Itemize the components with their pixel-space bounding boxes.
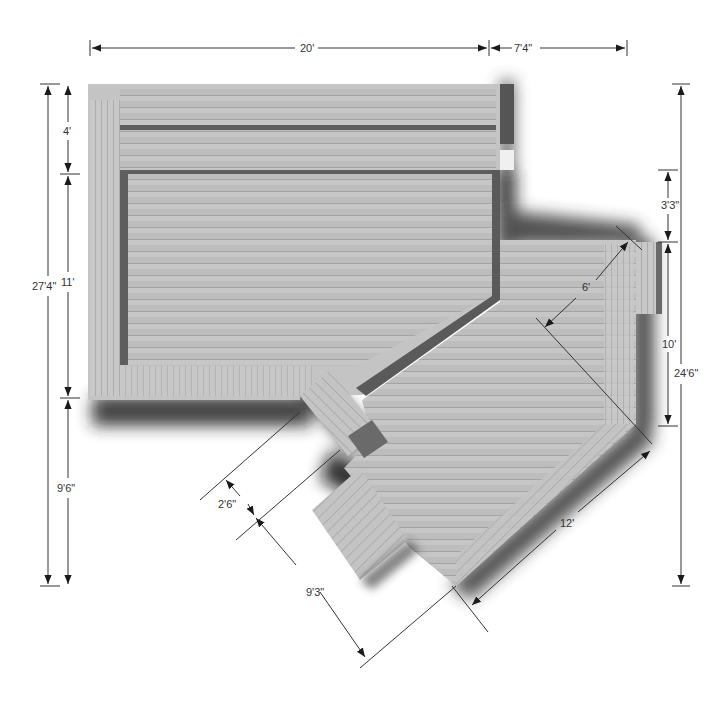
label-27ft4in: 27'4" [32,280,56,292]
label-7ft4in: 7'4" [514,42,532,54]
label-11ft: 11' [61,276,75,288]
label-12ft: 12' [560,517,574,529]
label-24ft6in: 24'6" [674,367,698,379]
label-6ft: 6' [582,281,590,293]
deck-plan-diagram: 20' 7'4" 27'4" 4' 11' 9'6" 3'3" 10' 24'6… [0,0,724,714]
label-3ft3in: 3'3" [661,199,679,211]
upper-right-ledge [500,84,514,170]
label-4ft: 4' [63,125,71,137]
label-20ft: 20' [300,42,314,54]
label-2ft6in: 2'6" [218,498,236,510]
label-9ft6in: 9'6" [57,482,75,494]
label-10ft: 10' [662,338,676,350]
label-9ft3in: 9'3" [306,586,324,598]
